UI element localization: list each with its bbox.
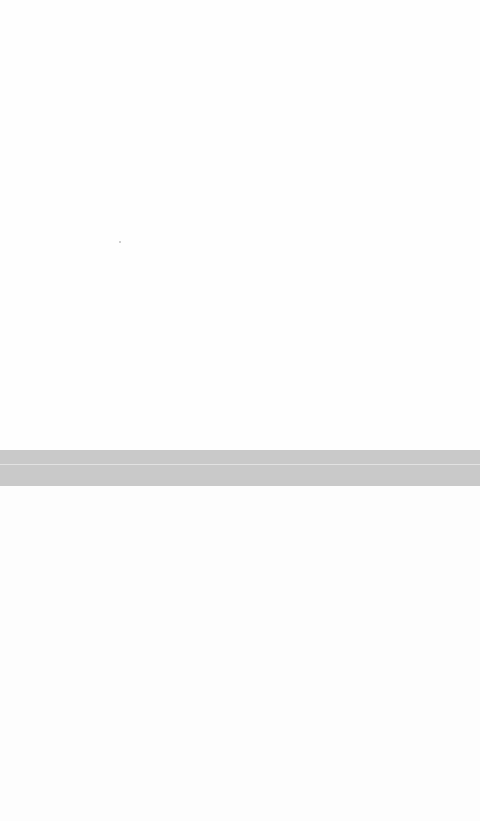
top-pane <box>0 0 480 450</box>
splitter-bar[interactable] <box>0 450 480 486</box>
stray-pixel <box>119 241 121 243</box>
bottom-pane <box>0 486 480 821</box>
splitter-highlight-line <box>0 464 480 465</box>
